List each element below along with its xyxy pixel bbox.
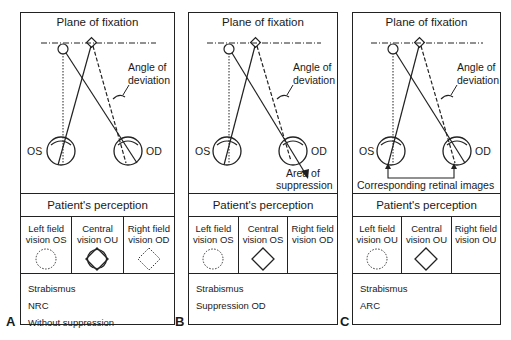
- angle-label-line1: Angle of: [293, 61, 332, 73]
- perception-header: Patient's perception: [353, 193, 500, 217]
- note-line: NRC: [28, 297, 174, 314]
- angle-label-line1: Angle of: [128, 61, 167, 73]
- right-field-cell: Right field vision OD: [123, 217, 174, 273]
- panel-c: Plane of fixation Angle of deviation OS …: [352, 12, 501, 325]
- panel-label-b: B: [175, 314, 184, 329]
- right-eye-label: OD: [146, 145, 162, 157]
- cell-line1: Central: [402, 223, 450, 234]
- cell-line1: Left field: [189, 223, 238, 234]
- right-field-cell: Right field vision OD: [287, 217, 337, 273]
- left-field-cell: Left field vision OS: [21, 217, 71, 273]
- perception-header: Patient's perception: [189, 193, 337, 217]
- angle-label-line2: deviation: [457, 74, 499, 86]
- cell-line2: vision OD: [124, 234, 174, 245]
- circle-diamond-icon: [85, 247, 109, 271]
- right-field-cell: Right field vision OU: [451, 217, 500, 273]
- cell-line2: vision OD: [288, 234, 337, 245]
- fixation-diagram: Plane of fixation Angle of deviation OS …: [353, 13, 500, 193]
- angle-label-line1: Angle of: [457, 61, 496, 73]
- suppression-label-line1: Area of: [286, 167, 320, 179]
- suppression-label-line2: suppression: [276, 179, 333, 191]
- cell-line2: vision OS: [239, 234, 288, 245]
- cell-line1: Right field: [452, 223, 500, 234]
- angle-label-line2: deviation: [293, 74, 335, 86]
- dotted-circle-icon: [365, 247, 389, 271]
- left-field-cell: Left field vision OU: [353, 217, 401, 273]
- panel-b: Plane of fixation Angle of deviation OS …: [188, 12, 338, 325]
- panel-label-c: C: [340, 314, 349, 329]
- note-line: Strabismus: [28, 280, 174, 297]
- central-cell: Central vision OS: [238, 217, 288, 273]
- cell-line1: Left field: [21, 223, 71, 234]
- central-cell: Central vision OU: [401, 217, 450, 273]
- right-eye-label: OD: [311, 145, 327, 157]
- dotted-circle-icon: [34, 247, 58, 271]
- note-line: ARC: [360, 297, 500, 314]
- diagnosis-notes: Strabismus Suppression OD: [189, 274, 337, 324]
- cell-line1: Right field: [124, 223, 174, 234]
- perception-cells: Left field vision OS Central vision OU R…: [21, 217, 174, 274]
- cell-line2: vision OU: [72, 234, 122, 245]
- panel-a: Plane of fixation Angle of deviation OS …: [20, 12, 175, 325]
- cell-line1: Right field: [288, 223, 337, 234]
- correspondence-bracket: [388, 167, 454, 178]
- note-line: Suppression OD: [196, 297, 337, 314]
- object-circle-icon: [224, 44, 234, 54]
- left-eye-label: OS: [195, 145, 210, 157]
- eye-ray-diagram: [353, 13, 502, 193]
- angle-label-line2: deviation: [128, 74, 170, 86]
- perception-cells: Left field vision OU Central vision OU R…: [353, 217, 500, 274]
- cell-line2: vision OU: [452, 234, 500, 245]
- corresponding-images-label: Corresponding retinal images: [357, 179, 494, 191]
- diamond-icon: [251, 247, 275, 271]
- fixation-diagram: Plane of fixation Angle of deviation OS …: [189, 13, 337, 193]
- eye-ray-diagram: [189, 13, 339, 193]
- left-field-cell: Left field vision OS: [189, 217, 238, 273]
- right-eye-label: OD: [475, 145, 491, 157]
- panel-label-a: A: [6, 314, 15, 329]
- left-eye-label: OS: [359, 145, 374, 157]
- cell-line1: Left field: [353, 223, 401, 234]
- diamond-icon: [414, 247, 438, 271]
- object-circle-icon: [58, 44, 68, 54]
- perception-cells: Left field vision OS Central vision OS R…: [189, 217, 337, 274]
- cell-line2: vision OS: [21, 234, 71, 245]
- perception-header: Patient's perception: [21, 193, 174, 217]
- fixation-diagram: Plane of fixation Angle of deviation OS …: [21, 13, 174, 193]
- note-line: Strabismus: [360, 280, 500, 297]
- object-circle-icon: [388, 44, 398, 54]
- diagnosis-notes: Strabismus ARC: [353, 274, 500, 324]
- cell-line2: vision OS: [189, 234, 238, 245]
- note-line: Without suppression: [28, 314, 174, 331]
- cell-line2: vision OU: [402, 234, 450, 245]
- cell-line1: Central: [72, 223, 122, 234]
- left-eye-label: OS: [27, 145, 42, 157]
- eye-ray-diagram: [21, 13, 176, 193]
- diagnosis-notes: Strabismus NRC Without suppression: [21, 274, 174, 324]
- dotted-diamond-icon: [137, 247, 161, 271]
- cell-line1: Central: [239, 223, 288, 234]
- cell-line2: vision OU: [353, 234, 401, 245]
- central-cell: Central vision OU: [71, 217, 122, 273]
- note-line: Strabismus: [196, 280, 337, 297]
- dotted-circle-icon: [201, 247, 225, 271]
